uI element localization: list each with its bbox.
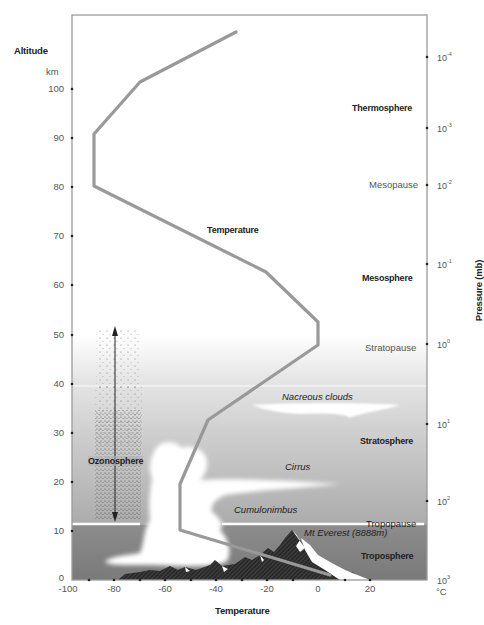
x-tick-label: -80 [99, 583, 129, 594]
pressure-tick-label: 101 [437, 418, 450, 430]
y-tick-label: 40 [34, 378, 64, 389]
y-axis-unit: km [46, 66, 59, 77]
pressure-axis-title: Pressure (mb) [473, 251, 484, 331]
pressure-tick-label: 10-3 [437, 122, 452, 134]
x-axis-unit: °C [436, 586, 447, 597]
label-mesosphere: Mesosphere [362, 273, 413, 283]
label-thermosphere: Thermosphere [352, 103, 412, 113]
y-tick-label: 0 [34, 572, 64, 583]
pressure-tick-label: 10-2 [437, 179, 452, 191]
x-axis-title: Temperature [215, 605, 270, 616]
label-stratosphere: Stratosphere [360, 436, 413, 446]
pressure-tick-label: 103 [437, 574, 450, 586]
label-cirrus: Cirrus [285, 461, 310, 472]
y-tick-label: 60 [34, 279, 64, 290]
x-tick-label: -40 [201, 583, 231, 594]
x-tick-label: -100 [53, 583, 83, 594]
pressure-tick-label: 100 [437, 338, 450, 350]
y-axis-title: Altitude [14, 45, 48, 56]
pressure-tick-label: 10-4 [437, 51, 452, 63]
y-tick-label: 80 [34, 181, 64, 192]
label-troposphere: Troposphere [361, 551, 413, 561]
ozonosphere-stipple [94, 330, 142, 520]
pressure-tick-label: 10-1 [437, 258, 452, 270]
pressure-tick-label: 102 [437, 495, 450, 507]
y-tick-label: 90 [34, 132, 64, 143]
label-ozonosphere: Ozonosphere [88, 456, 143, 466]
label-stratopause: Stratopause [365, 342, 416, 353]
x-tick-label: 20 [355, 583, 385, 594]
y-tick-label: 10 [34, 525, 64, 536]
y-tick-label: 100 [34, 83, 64, 94]
x-tick-label: 0 [303, 583, 333, 594]
y-tick-label: 20 [34, 476, 64, 487]
y-tick-label: 30 [34, 427, 64, 438]
label-nacreous-clouds: Nacreous clouds [282, 391, 353, 402]
x-tick-label: -60 [150, 583, 180, 594]
label-mt-everest: Mt Everest (8888m) [304, 527, 387, 538]
label-mesopause: Mesopause [369, 179, 418, 190]
label-cumulonimbus: Cumulonimbus [234, 504, 297, 515]
x-tick-label: -20 [252, 583, 282, 594]
y-tick-label: 70 [34, 230, 64, 241]
atmosphere-chart [0, 0, 484, 625]
y-tick-label: 50 [34, 329, 64, 340]
label-temperature-curve: Temperature [207, 225, 259, 235]
